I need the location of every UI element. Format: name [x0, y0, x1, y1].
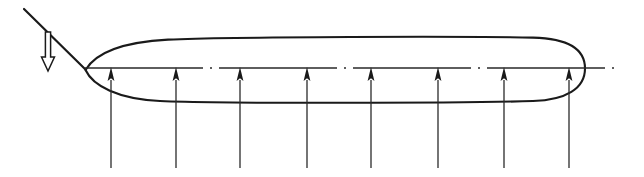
airfoil-diagram-svg	[0, 0, 644, 177]
figure-background	[0, 0, 644, 177]
figure-root	[0, 0, 644, 177]
